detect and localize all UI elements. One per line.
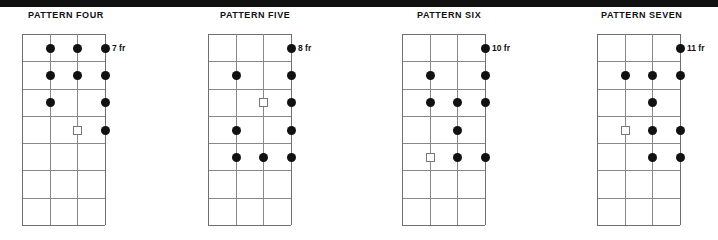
string-line <box>208 34 209 225</box>
root-note-marker <box>621 126 630 135</box>
note-dot <box>101 71 110 80</box>
note-dot <box>101 98 110 107</box>
fret-line <box>402 225 485 226</box>
fret-line <box>597 225 680 226</box>
pattern-diagram-row: PATTERN FOUR7 frPATTERN FIVE8 frPATTERN … <box>0 7 718 240</box>
note-dot <box>676 126 685 135</box>
string-line <box>50 34 51 225</box>
note-dot <box>481 44 490 53</box>
note-dot <box>287 44 296 53</box>
note-dot <box>232 153 241 162</box>
fret-line <box>597 116 680 117</box>
note-dot <box>676 153 685 162</box>
fretboard-grid <box>597 34 680 225</box>
pattern-title: PATTERN FOUR <box>28 10 104 20</box>
fret-line <box>402 34 485 35</box>
note-dot <box>676 44 685 53</box>
note-dot <box>453 98 462 107</box>
fret-line <box>22 89 105 90</box>
fret-line <box>597 170 680 171</box>
fret-line <box>208 198 291 199</box>
note-dot <box>287 71 296 80</box>
note-dot <box>287 153 296 162</box>
fret-line <box>208 89 291 90</box>
note-dot <box>232 126 241 135</box>
note-dot <box>46 98 55 107</box>
string-line <box>22 34 23 225</box>
fret-line <box>22 143 105 144</box>
fret-line <box>22 225 105 226</box>
note-dot <box>676 71 685 80</box>
fret-position-label: 8 fr <box>298 43 311 53</box>
note-dot <box>101 126 110 135</box>
note-dot <box>481 71 490 80</box>
pattern-title: PATTERN SEVEN <box>601 10 682 20</box>
note-dot <box>453 153 462 162</box>
note-dot <box>287 126 296 135</box>
fret-line <box>22 116 105 117</box>
note-dot <box>481 153 490 162</box>
string-line <box>485 34 486 225</box>
fret-line <box>208 61 291 62</box>
fret-line <box>402 61 485 62</box>
note-dot <box>648 71 657 80</box>
note-dot <box>73 71 82 80</box>
fret-line <box>208 34 291 35</box>
note-dot <box>46 44 55 53</box>
fret-line <box>208 170 291 171</box>
root-note-marker <box>73 126 82 135</box>
string-line <box>430 34 431 225</box>
fret-line <box>402 143 485 144</box>
fret-line <box>208 225 291 226</box>
note-dot <box>101 44 110 53</box>
top-black-band <box>0 0 718 7</box>
fret-line <box>597 34 680 35</box>
root-note-marker <box>426 153 435 162</box>
pattern-title: PATTERN SIX <box>417 10 481 20</box>
fret-position-label: 10 fr <box>492 43 510 53</box>
fret-line <box>402 116 485 117</box>
pattern-title: PATTERN FIVE <box>220 10 290 20</box>
fret-line <box>597 61 680 62</box>
note-dot <box>648 126 657 135</box>
note-dot <box>287 98 296 107</box>
string-line <box>402 34 403 225</box>
note-dot <box>232 71 241 80</box>
note-dot <box>481 98 490 107</box>
fretboard-grid <box>402 34 485 225</box>
fret-line <box>597 143 680 144</box>
note-dot <box>621 71 630 80</box>
fret-line <box>22 34 105 35</box>
fret-position-label: 11 fr <box>687 43 705 53</box>
fret-line <box>402 89 485 90</box>
fret-position-label: 7 fr <box>112 43 125 53</box>
fretboard-grid <box>208 34 291 225</box>
string-line <box>597 34 598 225</box>
fret-line <box>22 170 105 171</box>
fret-line <box>402 170 485 171</box>
fret-line <box>208 143 291 144</box>
root-note-marker <box>259 98 268 107</box>
note-dot <box>453 126 462 135</box>
string-line <box>263 34 264 225</box>
note-dot <box>46 71 55 80</box>
fret-line <box>402 198 485 199</box>
fret-line <box>597 89 680 90</box>
note-dot <box>648 153 657 162</box>
note-dot <box>648 98 657 107</box>
fret-line <box>597 198 680 199</box>
note-dot <box>426 98 435 107</box>
note-dot <box>259 153 268 162</box>
fretboard-grid <box>22 34 105 225</box>
note-dot <box>426 71 435 80</box>
fret-line <box>22 198 105 199</box>
fret-line <box>22 61 105 62</box>
fret-line <box>208 116 291 117</box>
note-dot <box>73 44 82 53</box>
